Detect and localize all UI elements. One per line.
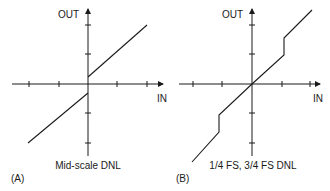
- dnl-figure: OUT IN Mid-scale DNL (A): [0, 0, 330, 191]
- panel-b-x-axis-label: IN: [313, 93, 323, 104]
- panel-b-y-axis-label: OUT: [222, 9, 243, 20]
- panel-a-curve-lower: [28, 93, 88, 143]
- panel-a-y-axis-label: OUT: [58, 9, 79, 20]
- panel-a-tag: (A): [11, 173, 24, 184]
- panel-b-caption: 1/4 FS, 3/4 FS DNL: [209, 160, 297, 171]
- panel-b: OUT IN 1/4 FS, 3/4 FS DNL (B): [176, 9, 323, 184]
- panel-a-caption: Mid-scale DNL: [55, 160, 121, 171]
- panel-a: OUT IN Mid-scale DNL (A): [11, 9, 167, 184]
- panel-a-curve-upper: [88, 25, 147, 77]
- panel-b-axes: [179, 9, 320, 156]
- panel-b-tag: (B): [176, 173, 189, 184]
- panel-a-x-axis-label: IN: [157, 93, 167, 104]
